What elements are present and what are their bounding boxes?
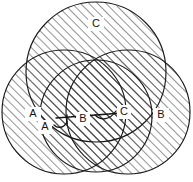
region-label-b-right: B	[157, 108, 164, 120]
region-label-c-top: C	[92, 17, 100, 29]
annotation-label-b: B	[79, 112, 86, 124]
venn-diagram-container: C A B A B C	[0, 0, 193, 182]
annotation-label-c: C	[120, 105, 128, 117]
annotation-label-a: A	[41, 120, 49, 132]
venn-diagram-svg: C A B A B C	[0, 0, 193, 182]
region-label-a-left: A	[29, 107, 37, 119]
